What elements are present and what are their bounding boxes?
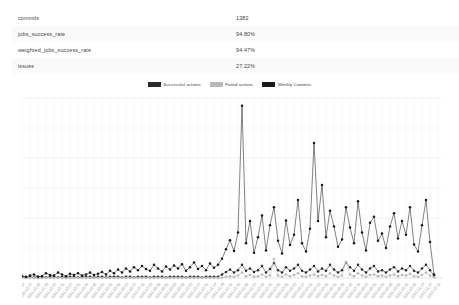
data-point	[209, 277, 212, 280]
data-point	[373, 273, 376, 276]
data-point	[141, 277, 144, 280]
data-point	[433, 273, 436, 276]
data-point	[425, 199, 428, 202]
data-point	[261, 265, 264, 268]
data-point	[237, 269, 240, 272]
data-point	[73, 277, 76, 280]
data-point	[357, 264, 360, 267]
legend-item-failed-actions: Failed actions	[210, 82, 253, 87]
data-point	[309, 228, 312, 231]
data-point	[377, 240, 380, 243]
data-point	[333, 274, 336, 277]
metric-value: 1382	[230, 10, 459, 26]
data-point	[321, 267, 324, 270]
data-point	[297, 272, 300, 275]
data-point	[181, 277, 184, 280]
data-point	[293, 234, 296, 237]
legend-swatch-icon	[210, 82, 223, 87]
data-point	[369, 222, 372, 225]
data-point	[57, 271, 60, 274]
data-point	[349, 226, 352, 229]
data-point	[205, 269, 208, 272]
data-point	[377, 275, 380, 278]
legend-swatch-icon	[262, 82, 275, 87]
data-point	[57, 277, 60, 280]
data-point	[389, 268, 392, 271]
legend-item-successful-actions: Successful actions	[148, 82, 201, 87]
data-point	[261, 273, 264, 276]
data-point	[357, 272, 360, 275]
data-point	[201, 277, 204, 280]
data-point	[281, 271, 284, 274]
metric-value: 94.80%	[230, 26, 459, 42]
data-point	[321, 184, 324, 187]
data-point	[53, 274, 56, 277]
data-point	[89, 277, 92, 280]
data-point	[397, 275, 400, 278]
data-point	[137, 269, 140, 272]
data-point	[237, 274, 240, 277]
data-point	[337, 246, 340, 249]
series-successful-actions	[22, 261, 435, 279]
data-point	[293, 267, 296, 270]
data-point	[285, 273, 288, 276]
data-point	[389, 274, 392, 277]
data-point	[429, 241, 432, 244]
data-point	[417, 271, 420, 274]
data-point	[313, 142, 316, 145]
data-point	[341, 238, 344, 241]
data-point	[61, 277, 64, 280]
data-point	[121, 271, 124, 274]
data-point	[305, 271, 308, 274]
data-point	[349, 273, 352, 276]
commits-activity-chart: Successful actions Failed actions Weekly…	[0, 76, 459, 305]
data-point	[85, 273, 88, 276]
data-point	[425, 264, 428, 267]
data-point	[149, 277, 152, 280]
legend-label: Successful actions	[163, 82, 200, 87]
data-point	[301, 242, 304, 245]
data-point	[317, 275, 320, 278]
data-point	[169, 268, 172, 271]
data-point	[117, 277, 120, 280]
data-point	[269, 224, 272, 227]
data-point	[157, 277, 160, 280]
data-point	[337, 276, 340, 279]
data-point	[225, 248, 228, 251]
data-point	[105, 273, 108, 276]
data-point	[217, 264, 220, 267]
legend-swatch-icon	[148, 82, 161, 87]
series-line	[22, 106, 434, 277]
data-point	[61, 273, 64, 276]
data-point	[325, 270, 328, 273]
data-point	[345, 206, 348, 209]
data-point	[229, 275, 232, 278]
metric-name: jobs_success_rate	[12, 26, 230, 42]
data-point	[81, 274, 84, 277]
data-point	[69, 273, 72, 276]
data-point	[249, 274, 252, 277]
metric-name: weighted_jobs_success_rate	[12, 42, 230, 58]
data-point	[257, 236, 260, 239]
data-point	[197, 268, 200, 271]
data-point	[385, 247, 388, 250]
data-point	[381, 232, 384, 235]
data-point	[29, 277, 32, 280]
data-point	[277, 240, 280, 243]
data-point	[189, 266, 192, 269]
data-point	[413, 275, 416, 278]
data-point	[273, 206, 276, 209]
data-point	[113, 272, 116, 275]
data-point	[321, 274, 324, 277]
metric-value: 94.47%	[230, 42, 459, 58]
data-point	[329, 210, 332, 213]
data-point	[193, 277, 196, 280]
data-point	[33, 273, 36, 276]
data-point	[417, 276, 420, 279]
data-point	[225, 276, 228, 279]
data-point	[409, 206, 412, 209]
data-point	[233, 250, 236, 253]
data-point	[101, 271, 104, 274]
chart-legend: Successful actions Failed actions Weekly…	[0, 78, 459, 90]
table-row: jobs_success_rate 94.80%	[12, 26, 459, 42]
